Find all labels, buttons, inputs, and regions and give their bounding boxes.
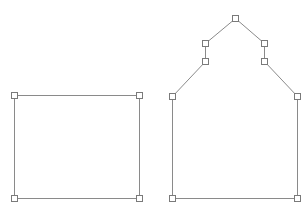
vertex-handle[interactable]	[170, 94, 176, 100]
vertex-handle[interactable]	[12, 196, 18, 202]
vertex-handle[interactable]	[233, 16, 239, 22]
vertex-handle[interactable]	[203, 59, 209, 65]
vertex-handle[interactable]	[170, 196, 176, 202]
house-shape[interactable]	[170, 16, 301, 202]
vertex-handle[interactable]	[295, 196, 301, 202]
rectangle-outline[interactable]	[15, 96, 140, 199]
rectangle-shape[interactable]	[12, 93, 143, 202]
vertex-handle[interactable]	[137, 93, 143, 99]
vertex-handle[interactable]	[295, 94, 301, 100]
vertex-handle[interactable]	[262, 41, 268, 47]
vertex-handle[interactable]	[12, 93, 18, 99]
vertex-handle[interactable]	[137, 196, 143, 202]
house-pentagon-outline[interactable]	[173, 19, 298, 199]
vertex-handle[interactable]	[203, 41, 209, 47]
drawing-canvas[interactable]	[0, 0, 305, 209]
vertex-handle[interactable]	[262, 59, 268, 65]
